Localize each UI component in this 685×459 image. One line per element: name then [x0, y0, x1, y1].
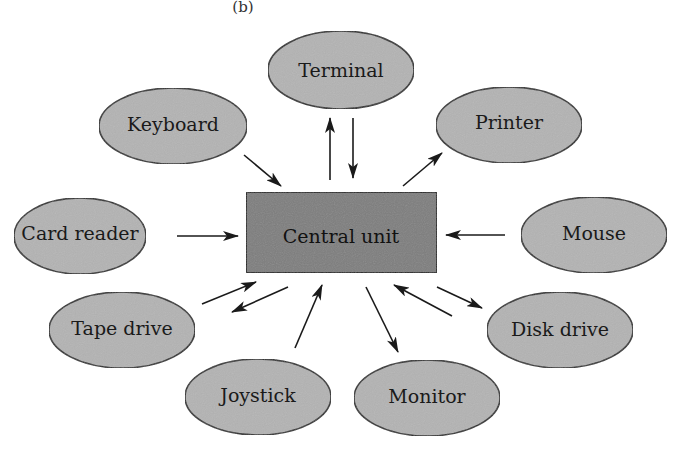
figure-label: (b): [232, 0, 253, 16]
arrow-joystick-to-central: [295, 285, 322, 348]
disk-drive-label: Disk drive: [511, 318, 609, 340]
arrow-central-to-printer: [403, 153, 442, 186]
terminal-label: Terminal: [298, 59, 383, 81]
node-mouse: Mouse: [521, 197, 667, 273]
node-keyboard: Keyboard: [99, 88, 247, 164]
io-diagram: (b) Central unit Terminal Keyboard: [0, 0, 685, 459]
node-tape-drive: Tape drive: [49, 292, 195, 368]
node-joystick: Joystick: [185, 359, 331, 435]
card-reader-label: Card reader: [21, 222, 139, 244]
arrow-central-to-diskdrive: [437, 287, 482, 308]
monitor-label: Monitor: [388, 385, 466, 407]
node-printer: Printer: [436, 87, 582, 163]
arrow-central-to-monitor: [366, 287, 398, 352]
printer-label: Printer: [475, 111, 544, 133]
central-unit: Central unit: [246, 192, 437, 273]
keyboard-label: Keyboard: [127, 113, 219, 135]
arrow-central-to-tapedrive: [232, 287, 288, 312]
node-card-reader: Card reader: [14, 198, 146, 274]
mouse-label: Mouse: [562, 222, 626, 244]
joystick-label: Joystick: [218, 384, 296, 406]
central-unit-label: Central unit: [283, 225, 400, 247]
node-disk-drive: Disk drive: [487, 292, 633, 368]
node-terminal: Terminal: [268, 31, 414, 109]
tape-drive-label: Tape drive: [71, 317, 172, 339]
arrow-keyboard-to-central: [244, 155, 281, 186]
node-monitor: Monitor: [354, 360, 500, 436]
arrow-tapedrive-to-central: [202, 282, 256, 304]
